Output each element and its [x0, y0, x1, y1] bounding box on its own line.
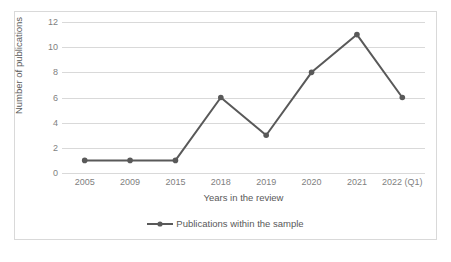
x-axis-tick-label: 2018	[211, 177, 231, 187]
data-point	[309, 70, 315, 76]
y-axis-tick-label: 6	[53, 93, 58, 102]
x-axis-title: Years in the review	[62, 192, 425, 203]
y-axis-tick-labels: 024681012	[26, 22, 58, 173]
y-axis-tick-label: 2	[53, 143, 58, 152]
x-axis-tick-label: 2005	[75, 177, 95, 187]
data-point	[400, 95, 406, 101]
data-point	[263, 132, 269, 138]
line-series-publications-within-the-sample	[62, 22, 425, 173]
plot-area	[62, 22, 425, 173]
data-point	[354, 32, 360, 38]
x-axis-tick-label: 2015	[165, 177, 185, 187]
x-axis-tick-label: 2021	[347, 177, 367, 187]
data-point	[173, 158, 179, 164]
y-axis-tick-label: 8	[53, 68, 58, 77]
gridline	[62, 173, 425, 174]
chart-legend: Publications within the sample	[14, 218, 437, 229]
y-axis-tick-label: 10	[48, 43, 58, 52]
legend-item-publications-within-the-sample[interactable]: Publications within the sample	[147, 218, 303, 229]
data-point	[82, 158, 88, 164]
x-axis-tick-label: 2019	[256, 177, 276, 187]
legend-line-marker-icon	[147, 219, 173, 229]
x-axis-tick-label: 2020	[302, 177, 322, 187]
x-axis-tick-label: 2022 (Q1)	[382, 177, 423, 187]
y-axis-tick-label: 0	[53, 169, 58, 178]
series-line	[85, 35, 403, 161]
data-point	[218, 95, 224, 101]
y-axis-tick-label: 12	[48, 18, 58, 27]
y-axis-tick-label: 4	[53, 118, 58, 127]
series-markers	[82, 32, 405, 163]
data-point	[127, 158, 133, 164]
chart-container: Number of publications 024681012 2005200…	[0, 0, 451, 262]
x-axis-tick-label: 2009	[120, 177, 140, 187]
y-axis-title: Number of publications	[13, 0, 24, 141]
x-axis-tick-labels: 20052009201520182019202020212022 (Q1)	[62, 177, 425, 191]
legend-item-label: Publications within the sample	[176, 218, 303, 229]
